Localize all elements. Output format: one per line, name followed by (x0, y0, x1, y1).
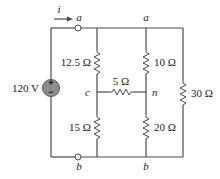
node-label-c: c (85, 86, 90, 98)
current-arrow-icon (54, 17, 73, 22)
node-label-b-bottom: b (143, 160, 149, 172)
voltage-source: + − (43, 78, 60, 97)
resistor-label-20-ohm: 20 Ω (154, 121, 176, 133)
node-label-a-top: a (143, 11, 149, 23)
resistor-label-15-ohm: 15 Ω (69, 121, 91, 133)
node-label-n: n (152, 86, 158, 98)
terminal-a (75, 25, 81, 31)
resistor-20-ohm (143, 115, 149, 139)
resistor-label-12.5-ohm: 12.5 Ω (61, 56, 91, 68)
resistor-10-ohm (143, 50, 149, 74)
resistor-12.5-ohm (94, 50, 100, 74)
resistor-label-30-ohm: 30 Ω (191, 87, 213, 99)
resistor-label-5-ohm: 5 Ω (113, 75, 129, 87)
resistor-label-10-ohm: 10 Ω (154, 56, 176, 68)
resistor-30-ohm (180, 81, 186, 105)
source-voltage-label: 120 V (12, 82, 39, 94)
resistor-15-ohm (94, 115, 100, 139)
circuit-diagram: + − i a a b b c n 120 V 12.5 Ω 10 Ω 5 Ω … (0, 0, 220, 179)
resistor-5-ohm (110, 89, 133, 95)
wires (51, 28, 183, 157)
node-label-a-terminal: a (76, 11, 82, 23)
minus-sign: − (48, 87, 53, 97)
current-label: i (57, 3, 60, 15)
node-label-b-terminal: b (76, 160, 82, 172)
